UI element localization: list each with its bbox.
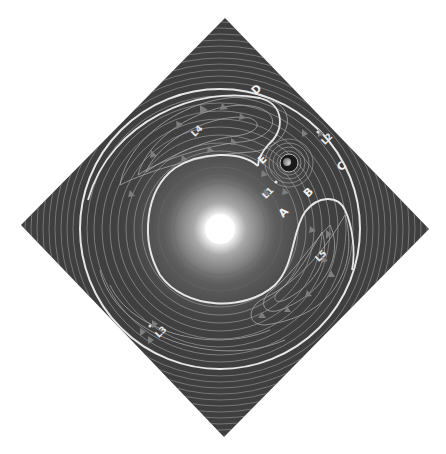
- l3-marker: [148, 324, 151, 327]
- l2-marker: [316, 130, 319, 133]
- planet: [280, 154, 298, 172]
- sun: [205, 214, 235, 244]
- lagrange-diagram: D L4 L2 E C L1 B A L5 L3: [0, 0, 446, 454]
- l1-marker: [274, 180, 277, 183]
